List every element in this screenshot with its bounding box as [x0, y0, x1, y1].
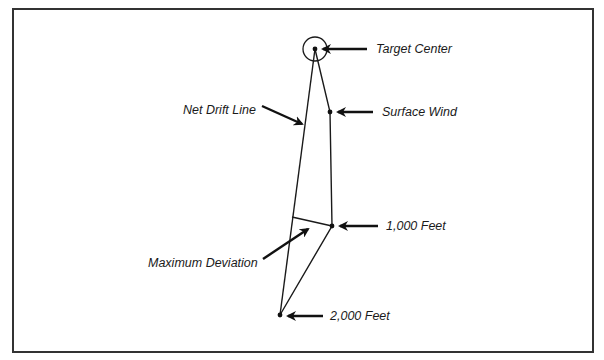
two-thousand-feet-dot [278, 313, 283, 318]
net-drift-line-label: Net Drift Line [183, 103, 256, 117]
two-thousand-feet-label: 2,000 Feet [329, 309, 390, 323]
diagram-frame [13, 9, 593, 352]
surface-wind-dot [328, 110, 333, 115]
maximum-deviation-label: Maximum Deviation [148, 256, 258, 270]
drift-diagram: Target Center Surface Wind Net Drift Lin… [0, 0, 604, 360]
target-center-label: Target Center [376, 42, 453, 56]
one-thousand-feet-label: 1,000 Feet [386, 219, 446, 233]
surface-wind-label: Surface Wind [382, 105, 458, 119]
one-thousand-feet-dot [330, 224, 335, 229]
target-center-dot [313, 47, 318, 52]
